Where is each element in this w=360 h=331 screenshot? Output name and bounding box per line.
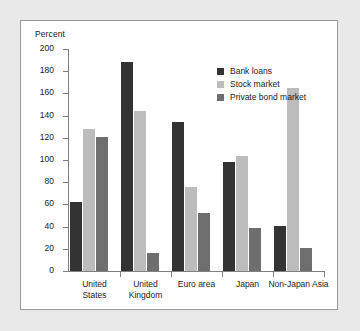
- y-tick-label: 180: [24, 65, 54, 75]
- chart-panel: Percent 200180160140120100806040200 Unit…: [20, 20, 338, 310]
- y-tick-label: 0: [24, 265, 54, 275]
- bar: [83, 129, 95, 271]
- legend-item: Stock market: [217, 78, 306, 90]
- legend-swatch-icon: [217, 94, 224, 101]
- y-tick-label: 20: [24, 243, 54, 253]
- bar: [249, 228, 261, 271]
- bar: [172, 122, 184, 271]
- x-tick-mark: [273, 272, 274, 277]
- legend-swatch-icon: [217, 81, 224, 88]
- y-tick-label: 100: [24, 154, 54, 164]
- legend-item: Private bond market: [217, 91, 306, 103]
- x-tick-mark: [222, 272, 223, 277]
- bar: [147, 253, 159, 271]
- x-tick-mark: [171, 272, 172, 277]
- bar: [134, 111, 146, 271]
- y-tick-label: 60: [24, 198, 54, 208]
- y-tick-label: 80: [24, 176, 54, 186]
- bar: [70, 202, 82, 271]
- y-tick: 0: [63, 271, 69, 272]
- bar: [121, 62, 133, 271]
- y-tick-label: 140: [24, 110, 54, 120]
- bar: [96, 137, 108, 271]
- x-category-label: Non-Japan Asia: [263, 279, 334, 290]
- bar: [223, 162, 235, 271]
- bar: [300, 248, 312, 271]
- bar: [274, 226, 286, 272]
- legend-swatch-icon: [217, 68, 224, 75]
- y-tick-label: 40: [24, 221, 54, 231]
- y-tick-label: 200: [24, 43, 54, 53]
- y-tick-label: 120: [24, 132, 54, 142]
- bar: [198, 213, 210, 271]
- y-axis-title: Percent: [35, 29, 65, 39]
- x-axis-line: [68, 271, 325, 272]
- x-tick-mark: [324, 272, 325, 277]
- bar: [287, 88, 299, 271]
- y-tick-label: 160: [24, 87, 54, 97]
- legend-item: Bank loans: [217, 65, 306, 77]
- x-tick-mark: [120, 272, 121, 277]
- y-tick-mark: [63, 271, 69, 272]
- chart-legend: Bank loansStock marketPrivate bond marke…: [217, 65, 306, 104]
- bar: [185, 187, 197, 271]
- legend-label: Bank loans: [230, 66, 272, 76]
- legend-label: Stock market: [230, 79, 280, 89]
- bar: [236, 156, 248, 271]
- legend-label: Private bond market: [230, 92, 306, 102]
